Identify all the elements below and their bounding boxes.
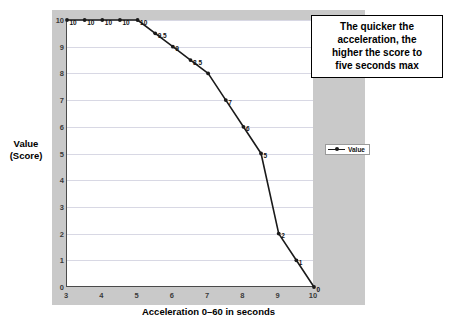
x-tick-label: 10: [309, 291, 317, 300]
y-axis-title-line1: Value: [2, 138, 50, 150]
x-tick-label: 8: [240, 291, 244, 300]
chart-legend: Value: [325, 144, 370, 155]
legend-line-marker-icon: [328, 146, 345, 153]
annotation-line: acceleration, the: [315, 33, 439, 46]
x-axis-title: Acceleration 0–60 in seconds: [52, 306, 365, 317]
x-tick-label: 7: [205, 291, 209, 300]
y-axis-title-line2: (Score): [2, 150, 50, 162]
annotation-line: higher the score to: [315, 46, 439, 59]
legend-item-value: Value: [348, 146, 365, 153]
chart-screenshot: 10101010109.598.5765210 012345678910 345…: [0, 0, 449, 330]
annotation-line: five seconds max: [315, 59, 439, 72]
x-tick-label: 9: [276, 291, 280, 300]
x-tick-label: 4: [99, 291, 103, 300]
annotation-line: The quicker the: [315, 20, 439, 33]
x-tick-label: 6: [170, 291, 174, 300]
annotation-callout: The quicker theacceleration, thehigher t…: [311, 15, 443, 78]
x-tick-label: 3: [64, 291, 68, 300]
y-axis-title: Value (Score): [2, 138, 50, 162]
x-tick-label: 5: [134, 291, 138, 300]
